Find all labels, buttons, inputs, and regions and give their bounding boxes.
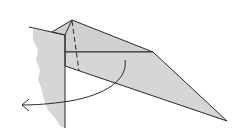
origami-diagram: [0, 0, 235, 140]
diagram-canvas: [0, 0, 235, 140]
upper-flap: [52, 20, 153, 52]
long-flap: [65, 52, 227, 121]
torn-paper-region: [33, 29, 65, 128]
